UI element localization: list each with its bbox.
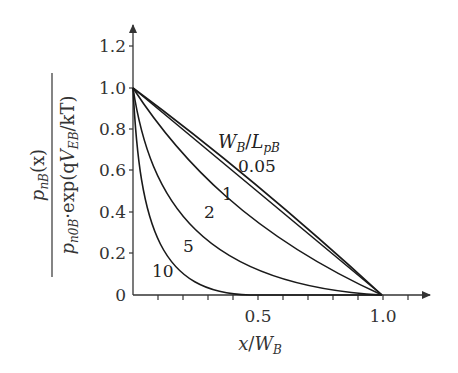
svg-text:pnB(x): pnB(x)	[27, 149, 51, 201]
curve-labels: 0.05 1 2 5 10	[152, 156, 276, 281]
y-tick-labels: 0 0.2 0.4 0.6 0.8 1.0 1.2	[99, 36, 126, 305]
curve-label-10: 10	[152, 261, 174, 281]
y-axis-label: pnB(x) pn0B·exp(qVEB/kT)	[27, 73, 81, 277]
svg-text:0.5: 0.5	[244, 306, 271, 326]
curve-label-1: 1	[222, 184, 233, 204]
svg-text:pn0B·exp(qVEB/kT): pn0B·exp(qVEB/kT)	[57, 96, 81, 255]
svg-text:0.2: 0.2	[99, 243, 126, 263]
x-tick-labels: 0.5 1.0	[244, 306, 396, 326]
svg-text:1.2: 1.2	[99, 36, 126, 56]
svg-text:0.6: 0.6	[99, 160, 126, 180]
svg-text:0: 0	[115, 285, 126, 305]
curve-label-0.05: 0.05	[238, 156, 276, 176]
x-axis-label: x/WB	[238, 333, 282, 357]
curve-label-2: 2	[204, 202, 215, 222]
curve-label-5: 5	[183, 236, 194, 256]
svg-text:0.4: 0.4	[99, 202, 126, 222]
legend-title: WB/LpB	[218, 131, 280, 155]
svg-text:1.0: 1.0	[99, 78, 126, 98]
svg-text:1.0: 1.0	[369, 306, 396, 326]
svg-text:0.8: 0.8	[99, 119, 126, 139]
axes	[133, 25, 430, 295]
chart-svg: 0 0.2 0.4 0.6 0.8 1.0 1.2 0.5 1.0 x/WB p…	[0, 0, 458, 373]
